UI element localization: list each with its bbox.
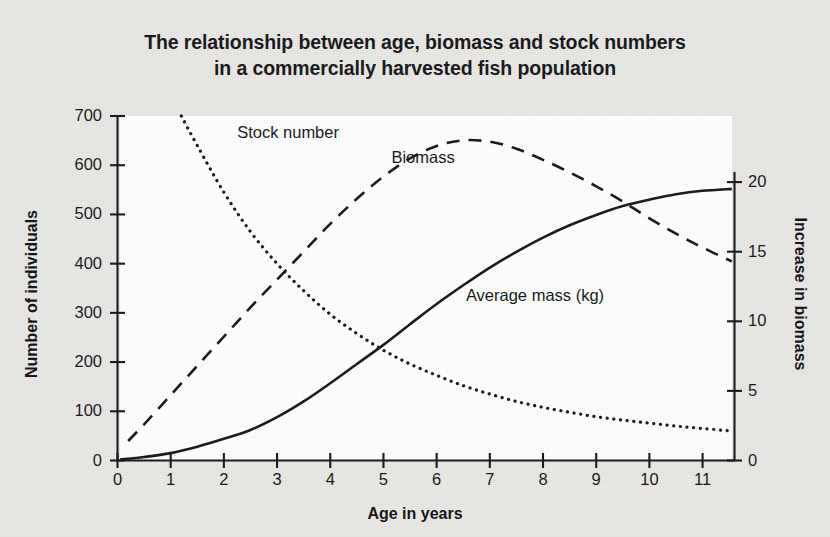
x-tick-label: 4 <box>316 470 344 489</box>
series-annotation: Biomass <box>391 148 454 167</box>
x-axis-title: Age in years <box>0 505 830 523</box>
right-tick-label: 0 <box>748 451 794 470</box>
x-tick-label: 7 <box>476 470 504 489</box>
left-tick-label: 500 <box>56 204 102 223</box>
x-tick-label: 1 <box>157 470 185 489</box>
left-tick-label: 300 <box>56 303 102 322</box>
x-tick-label: 2 <box>210 470 238 489</box>
left-tick-label: 200 <box>56 352 102 371</box>
x-tick-label: 11 <box>689 470 717 489</box>
x-tick-label: 5 <box>369 470 397 489</box>
right-tick-label: 20 <box>748 172 794 191</box>
chart-plot-area <box>0 0 830 537</box>
left-axis-title: Number of individuals <box>23 194 41 394</box>
right-tick-label: 15 <box>748 242 794 261</box>
right-tick-label: 5 <box>748 381 794 400</box>
x-tick-label: 3 <box>263 470 291 489</box>
plot-background <box>120 116 732 461</box>
left-tick-label: 600 <box>56 155 102 174</box>
x-tick-label: 10 <box>635 470 663 489</box>
x-tick-label: 8 <box>529 470 557 489</box>
left-tick-label: 700 <box>56 106 102 125</box>
left-tick-label: 400 <box>56 254 102 273</box>
x-tick-label: 9 <box>582 470 610 489</box>
series-annotation: Average mass (kg) <box>466 286 604 305</box>
figure-container: The relationship between age, biomass an… <box>0 0 830 537</box>
left-tick-label: 100 <box>56 401 102 420</box>
series-annotation: Stock number <box>237 123 339 142</box>
right-tick-label: 10 <box>748 311 794 330</box>
right-axis-title: Increase in biomass <box>791 194 809 394</box>
x-tick-label: 0 <box>104 470 132 489</box>
x-tick-label: 6 <box>423 470 451 489</box>
left-tick-label: 0 <box>56 451 102 470</box>
